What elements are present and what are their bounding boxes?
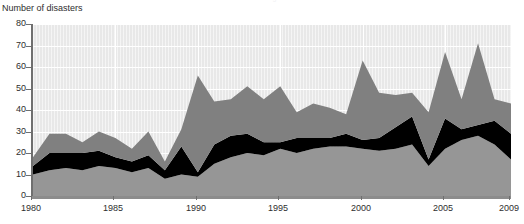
x-axis-line [31,196,511,199]
y-tick [26,153,31,154]
y-tick [26,89,31,90]
x-tick [509,196,510,200]
x-tick [278,196,279,200]
x-tick-label: 2009 [489,203,524,213]
y-axis-title: Number of disasters [2,3,83,13]
y-tick [26,132,31,133]
y-tick-label: 60 [2,61,26,71]
y-tick [26,110,31,111]
y-tick [26,24,31,25]
x-tick [361,196,362,200]
x-tick-label: 1995 [258,203,298,213]
x-tick [31,196,32,200]
y-tick-label: 80 [2,18,26,28]
y-tick [26,175,31,176]
x-tick-label: 1980 [11,203,51,213]
x-tick [196,196,197,200]
y-tick-label: 50 [2,83,26,93]
clipped-figure-title: Figure [232,0,322,3]
y-tick-label: 20 [2,147,26,157]
x-tick [443,196,444,200]
x-tick-label: 2005 [423,203,463,213]
gridline-vertical [511,24,512,196]
y-tick-label: 10 [2,169,26,179]
y-tick-label: 0 [2,190,26,200]
stacked-area-series [33,24,511,196]
y-tick [26,46,31,47]
plot-area [31,24,511,196]
x-tick-label: 2000 [341,203,381,213]
y-tick-label: 70 [2,40,26,50]
y-tick-label: 30 [2,126,26,136]
y-tick [26,67,31,68]
x-tick-label: 1985 [93,203,133,213]
x-tick [113,196,114,200]
y-tick-label: 40 [2,104,26,114]
x-tick-label: 1990 [176,203,216,213]
